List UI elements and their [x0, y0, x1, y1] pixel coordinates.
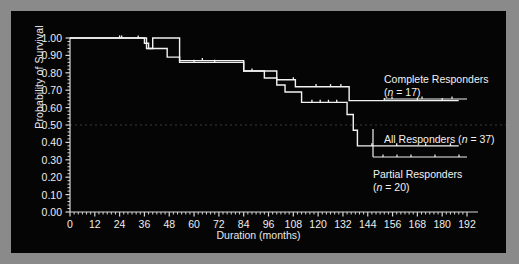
- annotation-partial-line2: (n = 20): [373, 181, 462, 194]
- y-tick-label: 0.90: [22, 50, 62, 60]
- annotation-complete-responders: Complete Responders (n = 17): [384, 73, 488, 98]
- survival-plot-svg: [11, 11, 506, 253]
- y-tick-label: 0.20: [22, 172, 62, 182]
- annotation-all-responders: All Responders (n = 37): [384, 133, 495, 146]
- y-tick-label: 0.60: [22, 103, 62, 113]
- x-tick-label: 192: [452, 219, 482, 229]
- annotation-partial-line1: Partial Responders: [373, 168, 462, 181]
- y-tick-label: 0.70: [22, 85, 62, 95]
- annotation-complete-line2: (n = 17): [384, 86, 488, 99]
- y-tick-label: 1.00: [22, 33, 62, 43]
- annotation-complete-line1: Complete Responders: [384, 73, 488, 86]
- y-tick-label: 0.00: [22, 207, 62, 217]
- y-tick-label: 0.80: [22, 68, 62, 78]
- y-tick-label: 0.30: [22, 155, 62, 165]
- x-axis-label: Duration (months): [11, 229, 506, 241]
- y-tick-label: 0.50: [22, 120, 62, 130]
- figure-root: Probability of Survival Duration (months…: [0, 0, 519, 264]
- chart-panel: Probability of Survival Duration (months…: [11, 11, 506, 253]
- y-tick-label: 0.10: [22, 190, 62, 200]
- y-tick-label: 0.40: [22, 137, 62, 147]
- annotation-partial-responders: Partial Responders (n = 20): [373, 168, 462, 193]
